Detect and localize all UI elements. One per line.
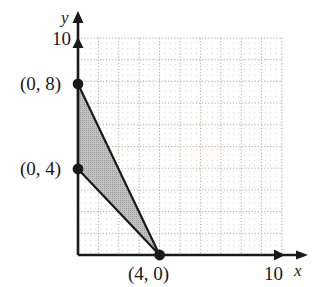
x-axis-label: x — [294, 262, 302, 279]
plot-canvas — [0, 0, 312, 287]
x-axis-arrowhead — [296, 251, 308, 260]
y-axis-label: y — [61, 9, 69, 26]
point-marker-0-4 — [73, 164, 84, 175]
y-axis-tick-label-10: 10 — [52, 29, 71, 48]
y-axis-arrowhead — [73, 11, 84, 23]
point-label-4-0: (4, 0) — [128, 264, 169, 283]
point-label-0-4: (0, 4) — [20, 159, 61, 178]
point-marker-4-0 — [154, 250, 165, 261]
graph-figure: y x 10 10 (0, 8) (0, 4) (4, 0) — [0, 0, 312, 287]
x-axis-tick-label-10: 10 — [264, 264, 283, 283]
point-label-0-8: (0, 8) — [20, 74, 61, 93]
point-marker-0-8 — [73, 79, 84, 90]
